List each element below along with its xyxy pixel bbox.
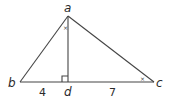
angle-mark-acb: × [140,75,145,82]
triangle-diagram: × × a b c d 4 7 [0,0,174,102]
angle-mark-bad: × [63,24,68,31]
length-label-dc: 7 [109,86,116,99]
vertex-label-b: b [8,76,16,90]
vertex-label-d: d [64,85,72,99]
side-ac [68,16,154,82]
side-ab [20,16,68,82]
vertex-label-a: a [64,1,71,15]
right-angle-marker [62,76,68,82]
vertex-label-c: c [156,76,163,90]
length-label-bd: 4 [39,86,46,99]
